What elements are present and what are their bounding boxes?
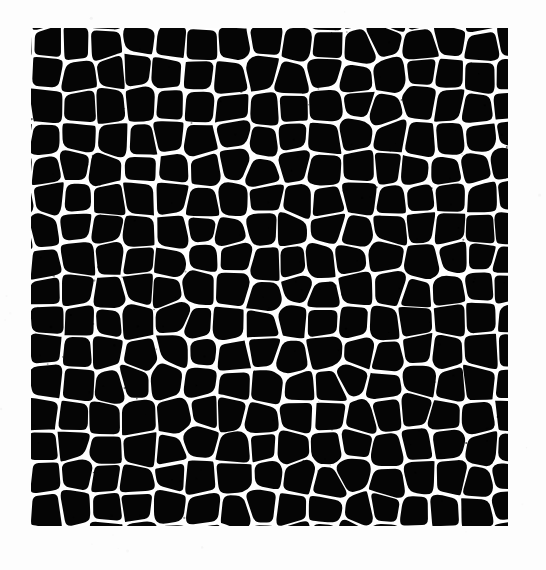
cell-interior	[371, 433, 404, 466]
wall-speckle	[331, 32, 332, 33]
paper-grain-dot	[526, 447, 527, 448]
wall-speckle	[166, 395, 168, 397]
wall-speckle	[330, 465, 331, 466]
wall-speckle	[247, 53, 248, 54]
wall-speckle	[442, 91, 444, 93]
cell-interior	[343, 150, 374, 181]
cell-interior	[338, 272, 372, 305]
cell-interior	[34, 28, 60, 57]
wall-speckle	[439, 453, 441, 455]
wall-speckle	[297, 156, 299, 158]
wall-speckle	[102, 305, 103, 306]
wall-speckle	[32, 424, 34, 426]
paper-grain-dot	[112, 534, 113, 535]
wall-speckle	[460, 234, 462, 236]
wall-speckle	[73, 517, 75, 519]
wall-speckle	[462, 239, 464, 241]
wall-speckle	[395, 143, 396, 144]
wall-speckle	[449, 178, 451, 180]
wall-speckle	[223, 264, 224, 265]
wall-speckle	[435, 381, 437, 383]
wall-speckle	[203, 355, 205, 357]
wall-speckle	[418, 429, 420, 431]
wall-speckle	[317, 88, 319, 90]
wall-speckle	[372, 246, 374, 248]
wall-speckle	[93, 279, 96, 282]
wall-speckle	[486, 440, 488, 442]
wall-speckle	[268, 307, 270, 309]
wall-speckle	[326, 285, 327, 286]
wall-speckle	[421, 277, 422, 278]
wall-speckle	[184, 270, 186, 272]
wall-speckle	[409, 331, 410, 332]
wall-speckle	[370, 196, 372, 198]
wall-speckle	[357, 260, 358, 261]
cell-interior	[279, 305, 307, 338]
wall-speckle	[497, 416, 499, 418]
cell-interior	[64, 91, 96, 122]
wall-speckle	[240, 90, 243, 93]
wall-speckle	[331, 429, 333, 431]
cell-interior	[218, 182, 247, 216]
wall-speckle	[457, 189, 458, 190]
cell-interior	[31, 89, 62, 123]
cell-interior	[122, 494, 152, 522]
wall-speckle	[191, 262, 193, 264]
cell-interior	[466, 303, 495, 333]
cell-interior	[433, 276, 465, 306]
wall-speckle	[82, 437, 84, 439]
wall-speckle	[237, 67, 239, 69]
cell-interior	[466, 124, 496, 152]
wall-speckle	[399, 288, 401, 290]
cell-interior	[62, 459, 92, 489]
paper-grain-dot	[521, 503, 523, 505]
cell-interior	[494, 276, 508, 304]
wall-speckle	[137, 325, 139, 327]
wall-speckle	[68, 254, 70, 256]
cell-interior	[499, 334, 508, 366]
cell-interior	[91, 465, 120, 492]
cell-interior	[31, 463, 60, 493]
wall-speckle	[175, 297, 176, 298]
wall-speckle	[99, 184, 101, 186]
wall-speckle	[120, 458, 122, 460]
cell-interior	[280, 96, 308, 122]
wall-speckle	[93, 472, 95, 474]
cell-interior	[63, 337, 92, 367]
wall-speckle	[279, 246, 280, 247]
cell-interior	[436, 184, 465, 212]
wall-speckle	[341, 294, 343, 296]
page-root	[0, 0, 546, 570]
wall-speckle	[134, 220, 136, 222]
cell-interior	[217, 463, 252, 493]
cell-interior	[400, 496, 428, 525]
wall-speckle	[53, 407, 54, 408]
wall-speckle	[200, 469, 202, 471]
cell-interior	[434, 304, 465, 336]
wall-speckle	[294, 350, 295, 351]
paper-grain-dot	[4, 319, 6, 321]
wall-speckle	[370, 83, 372, 85]
cell-interior	[465, 272, 493, 300]
wall-speckle	[196, 478, 198, 480]
wall-speckle	[156, 348, 157, 349]
wall-speckle	[280, 192, 282, 194]
wall-speckle	[293, 139, 295, 141]
wall-speckle	[93, 478, 95, 480]
wall-speckle	[196, 385, 198, 387]
wall-speckle	[334, 284, 337, 287]
wall-speckle	[125, 366, 127, 368]
wall-speckle	[219, 100, 221, 102]
cell-interior	[126, 86, 155, 121]
cell-interior	[187, 29, 218, 60]
wall-speckle	[505, 356, 506, 357]
wall-speckle	[301, 289, 303, 291]
cell-interior	[250, 92, 278, 125]
cell-interior	[31, 334, 62, 364]
wall-speckle	[53, 275, 56, 278]
cell-interior	[64, 28, 89, 60]
cell-interior	[124, 54, 150, 87]
cell-interior	[405, 122, 435, 157]
cell-interior	[31, 365, 62, 399]
wall-speckle	[171, 479, 172, 480]
